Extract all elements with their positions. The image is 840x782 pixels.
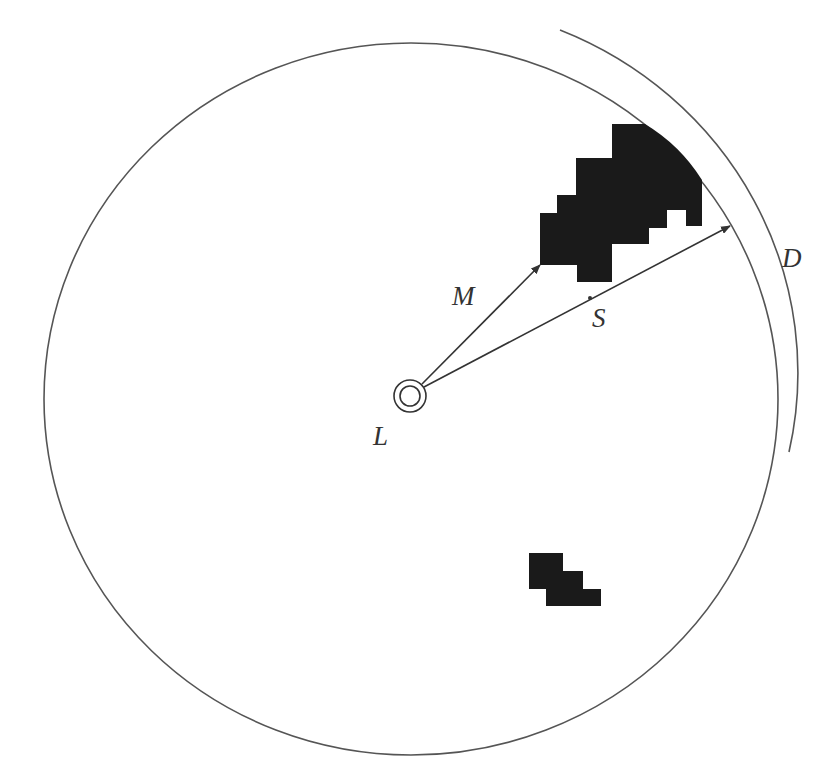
diagram-svg xyxy=(0,0,840,782)
label-m: M xyxy=(452,283,475,310)
diagram-canvas: L M S D xyxy=(0,0,840,782)
label-l: L xyxy=(373,423,388,450)
label-d: D xyxy=(782,245,802,272)
center-marker-inner xyxy=(400,386,420,406)
arrow-m xyxy=(422,265,540,384)
obstacle-upper xyxy=(540,124,702,282)
obstacle-lower xyxy=(529,553,601,606)
label-s: S xyxy=(592,305,606,332)
s-point-dot xyxy=(588,296,592,300)
